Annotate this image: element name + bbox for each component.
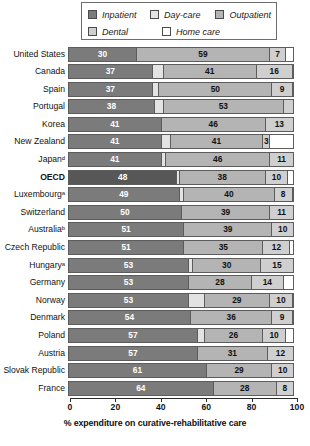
bar-segment-value: 40	[224, 190, 233, 199]
legend-label-daycare: Day-care	[164, 10, 201, 20]
bar-segment-inpatient: 53	[68, 293, 188, 308]
bar-segment-homecare	[292, 293, 294, 308]
bar-segment-outpatient: 53	[163, 99, 283, 114]
bar-segment-value: 30	[222, 261, 231, 270]
bar-segment-value: 10	[272, 173, 281, 182]
x-axis-title: % expenditure on curative-rehabilitative…	[0, 418, 310, 428]
bar-segment-value: 9	[280, 85, 285, 94]
bar-segment-inpatient: 53	[68, 275, 188, 290]
bar-segment-dental: 11	[269, 152, 294, 167]
bar-segment-value: 3	[264, 137, 269, 146]
bar-segment-value: 16	[269, 67, 278, 76]
bar-segment-value: 36	[227, 313, 236, 322]
bar-segment-value: 51	[121, 243, 130, 252]
bar-segment-value: 10	[278, 225, 287, 234]
bar-segment-dental: 10	[262, 328, 285, 343]
bar-segment-homecare	[292, 82, 294, 97]
bar-segment-dental: 10	[269, 293, 292, 308]
bar-segment-dental: 14	[251, 275, 283, 290]
bar-segment-value: 61	[133, 366, 142, 375]
legend-label-homecare: Home care	[176, 27, 220, 37]
x-axis-line	[70, 398, 297, 399]
x-axis-tick-label: 80	[240, 403, 264, 412]
row-label: United States	[0, 50, 68, 59]
bar-segment-homecare	[269, 134, 294, 149]
bar-segment-outpatient: 35	[183, 240, 262, 255]
bar-segment-value: 57	[128, 349, 137, 358]
row-label: Canada	[0, 67, 68, 76]
row-label: Japanᵈ	[0, 155, 68, 164]
bar-segment-value: 54	[125, 313, 134, 322]
bar-segment-value: 8	[283, 384, 288, 393]
bar-segment-outpatient: 36	[190, 310, 271, 325]
bar-segment-inpatient: 30	[68, 47, 136, 62]
bar-segment-value: 11	[277, 208, 286, 217]
bar-segment-value: 8	[281, 190, 286, 199]
bar-segment-value: 37	[106, 85, 115, 94]
bar-segment-outpatient: 50	[158, 82, 271, 97]
bar-segment-outpatient: 30	[192, 258, 260, 273]
bar-segment-outpatient: 39	[183, 222, 271, 237]
bar-segment-inpatient: 57	[68, 346, 197, 361]
x-axis-tick-label: 60	[194, 403, 218, 412]
row-label: Switzerland	[0, 208, 68, 217]
bar-segment-inpatient: 50	[68, 205, 181, 220]
legend-item-inpatient: Inpatient	[88, 10, 150, 20]
bar-segment-outpatient: 31	[197, 346, 267, 361]
bar-segment-dental: 11	[269, 205, 294, 220]
bar-area: 533015	[68, 258, 294, 273]
chart-row: Germany532814	[0, 275, 310, 291]
legend-item-homecare: Home care	[162, 27, 240, 37]
bar-area: 513910	[68, 222, 294, 237]
bar-segment-value: 38	[107, 102, 116, 111]
bar-segment-value: 46	[213, 155, 222, 164]
bar-segment-dental: 8	[276, 381, 294, 396]
bar-segment-outpatient: 40	[183, 187, 273, 202]
bar-area: 572610	[68, 328, 294, 343]
bar-segment-value: 59	[198, 50, 207, 59]
bar-segment-value: 29	[234, 366, 243, 375]
bar-segment-outpatient: 41	[170, 134, 263, 149]
row-label: Korea	[0, 120, 68, 129]
bar-segment-dental: 15	[260, 258, 294, 273]
bar-area: 3853	[68, 99, 294, 114]
chart-row: France64288	[0, 380, 310, 396]
chart-row: Japanᵈ414611	[0, 152, 310, 168]
bar-segment-outpatient: 38	[179, 170, 265, 185]
row-label: Czech Republic	[0, 243, 68, 252]
bar-area: 54369	[68, 310, 294, 325]
chart-row: OECD483810	[0, 169, 310, 185]
bar-segment-value: 15	[272, 261, 281, 270]
chart-row: Portugal3853	[0, 99, 310, 115]
row-label: New Zealand	[0, 137, 68, 146]
legend-item-outpatient: Outpatient	[215, 10, 271, 20]
bar-segment-inpatient: 51	[68, 222, 183, 237]
bar-segment-value: 10	[276, 296, 285, 305]
chart-row: Luxembourgᵃ49408	[0, 187, 310, 203]
chart-row: Switzerland503911	[0, 204, 310, 220]
bar-segment-dental: 13	[265, 117, 294, 132]
chart-row: Austria573112	[0, 345, 310, 361]
bar-segment-homecare	[283, 275, 294, 290]
bar-segment-inpatient: 41	[68, 134, 161, 149]
bar-segment-value: 48	[118, 173, 127, 182]
bar-area: 414611	[68, 152, 294, 167]
bar-segment-homecare	[289, 240, 294, 255]
row-label: Hungaryᵃ	[0, 261, 68, 270]
bar-segment-value: 57	[128, 331, 137, 340]
bar-segment-value: 53	[124, 261, 133, 270]
stacked-bar-chart: Inpatient Day-care Outpatient Dental Hom…	[0, 0, 310, 446]
bar-segment-value: 10	[269, 331, 278, 340]
bar-segment-value: 30	[98, 50, 107, 59]
bar-segment-value: 41	[110, 137, 119, 146]
chart-row: Korea414613	[0, 116, 310, 132]
bar-area: 612910	[68, 363, 294, 378]
chart-row: Canada374116	[0, 64, 310, 80]
bar-segment-dental: 10	[265, 170, 288, 185]
x-axis-tick-label: 40	[149, 403, 173, 412]
bar-segment-inpatient: 38	[68, 99, 154, 114]
bar-segment-value: 29	[232, 296, 241, 305]
bar-segment-dental: 12	[262, 240, 289, 255]
bar-segment-value: 53	[124, 278, 133, 287]
row-label: Slovak Republic	[0, 366, 68, 375]
